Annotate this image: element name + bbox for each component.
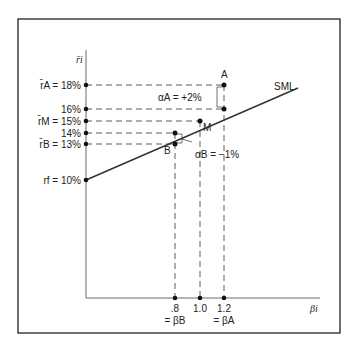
x-label-12: 1.2 (217, 303, 231, 314)
x-label-08-sub: = βB (164, 315, 185, 326)
alpha-a-label: αA = +2% (158, 92, 202, 103)
horizontal-guides (86, 85, 224, 144)
y-label-rb: r̄B = 13% (39, 138, 81, 150)
vertical-guides (175, 85, 224, 298)
y-label-ra: r̄A = 18% (39, 79, 81, 91)
y-label-rm: r̄M = 15% (37, 115, 81, 127)
point-b-label: B (164, 145, 171, 156)
y-label-16: 16% (61, 104, 81, 115)
x-label-08: .8 (171, 303, 180, 314)
sml-label: SML (274, 81, 295, 92)
alpha-a-bracket (217, 87, 222, 107)
alpha-b-label: αB = −1% (195, 149, 239, 160)
point-m-label: M (203, 122, 211, 133)
data-points (84, 83, 227, 301)
x-axis-label: βi (309, 303, 318, 314)
x-label-10: 1.0 (193, 303, 207, 314)
sml-diagram: r̄i r̄A = 18% 16% r̄M = 15% 14% r̄B = 13… (0, 0, 354, 360)
y-axis-label: r̄i (76, 54, 83, 65)
y-label-14: 14% (61, 128, 81, 139)
y-label-rf: rf = 10% (43, 175, 81, 186)
alpha-b-pointer (182, 139, 192, 142)
point-a-label: A (221, 69, 228, 80)
x-label-12-sub: = βA (213, 315, 234, 326)
